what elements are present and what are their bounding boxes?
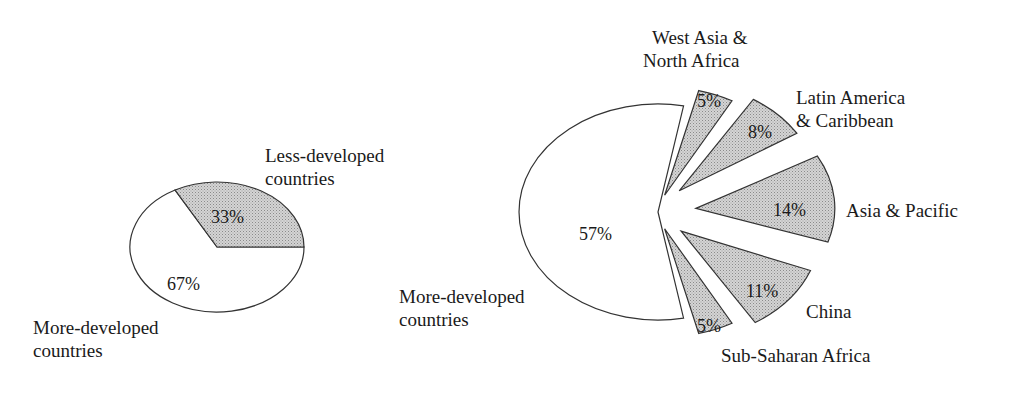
pie1-label-less-developed-line1: Less-developed [265,145,385,166]
pie2-label-sub-saharan-africa: Sub-Saharan Africa [721,345,871,366]
pie1-value-more-developed: 67% [167,274,200,294]
pie2-label-asia-pacific: Asia & Pacific [846,200,958,221]
pie2-label-latin-america-caribbean-line1: Latin America [796,87,906,108]
pie1-value-less-developed: 33% [211,207,244,227]
chart-canvas: 33% 67% Less-developed countries More-de… [0,0,1009,397]
pie1-label-more-developed-line1: More-developed [33,317,159,338]
pie1-label-less-developed-line2: countries [265,168,335,189]
pie2-value-more-developed: 57% [579,224,612,244]
pie2-value-sub-saharan-africa: 5% [697,316,721,336]
pie2-label-more-developed-line1: More-developed [399,286,525,307]
pie2-value-china: 11% [746,281,778,301]
pie2-value-latin-america-caribbean: 8% [748,122,772,142]
pie2-label-west-asia-north-africa-line1: West Asia & [652,27,748,48]
pie-chart-regional-breakdown: 57% 5% 8% 14% 11% 5% More-developed coun… [399,27,958,366]
pie2-value-west-asia-north-africa: 5% [697,91,721,111]
pie2-slice-more-developed [519,104,684,320]
pie2-label-west-asia-north-africa-line2: North Africa [643,50,740,71]
pie2-label-more-developed-line2: countries [399,309,469,330]
pie-chart-developed-vs-less-developed: 33% 67% Less-developed countries More-de… [33,145,385,361]
pie1-label-more-developed-line2: countries [33,340,103,361]
pie2-label-latin-america-caribbean-line2: & Caribbean [796,110,894,131]
pie2-value-asia-pacific: 14% [773,200,806,220]
pie2-label-china: China [806,301,852,322]
